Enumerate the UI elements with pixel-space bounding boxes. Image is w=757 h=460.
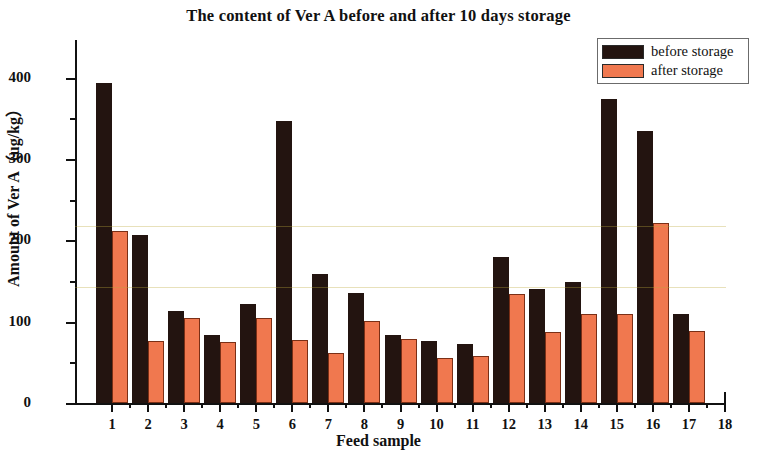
x-tick-minor [526,403,528,408]
bar-before-sample-13 [529,289,545,403]
x-tick-major [183,403,185,412]
x-tick-major [147,403,149,412]
bar-before-sample-14 [565,282,581,403]
x-tick-minor [345,403,347,408]
x-tick-label: 2 [133,416,163,433]
bar-after-sample-16 [653,223,669,403]
x-tick-major [219,403,221,412]
x-tick-label: 12 [494,416,524,433]
x-tick-label: 3 [169,416,199,433]
x-tick-major [400,403,402,412]
x-tick-major [111,403,113,412]
x-tick-label: 5 [241,416,271,433]
x-tick-label: 11 [458,416,488,433]
x-tick-label: 18 [710,416,740,433]
chart-title: The content of Ver A before and after 10… [0,6,757,26]
x-tick-label: 13 [530,416,560,433]
bar-after-sample-1 [112,231,128,403]
x-tick-minor [562,403,564,408]
x-tick-label: 6 [277,416,307,433]
legend-label-before: before storage [651,43,734,60]
y-tick-minor [70,200,75,202]
bar-after-sample-9 [401,339,417,403]
x-tick-minor [598,403,600,408]
bar-after-sample-7 [328,353,344,403]
bar-before-sample-8 [348,293,364,403]
x-tick-minor [490,403,492,408]
figure: The content of Ver A before and after 10… [0,0,757,460]
x-tick-minor [454,403,456,408]
x-tick-label: 14 [566,416,596,433]
bar-before-sample-4 [204,335,220,403]
x-tick-label: 15 [602,416,632,433]
plot-area: 0100200300400 12345678910111213141516171… [75,40,726,405]
bar-before-sample-15 [601,99,617,403]
legend-item-before: before storage [602,42,744,61]
bar-before-sample-3 [168,311,184,403]
bar-after-sample-2 [148,341,164,403]
x-tick-minor [670,403,672,408]
x-tick-minor [129,403,131,408]
bar-before-sample-7 [312,274,328,403]
bar-after-sample-14 [581,314,597,404]
bar-before-sample-10 [421,341,437,403]
bar-before-sample-6 [276,121,292,403]
bar-before-sample-11 [457,344,473,403]
bar-after-sample-17 [689,331,705,403]
bar-before-sample-12 [493,257,509,403]
x-tick-label: 8 [349,416,379,433]
x-tick-minor [706,403,708,408]
x-tick-label: 16 [638,416,668,433]
x-tick-major [544,403,546,412]
bar-after-sample-11 [473,356,489,403]
y-axis-line [75,40,77,405]
x-tick-minor [237,403,239,408]
bar-before-sample-9 [385,335,401,403]
bar-after-sample-3 [184,318,200,403]
x-tick-minor [381,403,383,408]
bar-after-sample-12 [509,294,525,403]
y-tick-major [66,403,75,405]
x-tick-label: 1 [97,416,127,433]
y-tick-major [66,159,75,161]
bar-after-sample-4 [220,342,236,403]
x-tick-major [472,403,474,412]
x-tick-major [436,403,438,412]
x-tick-major [363,403,365,412]
x-tick-major [616,403,618,412]
x-tick-label: 4 [205,416,235,433]
x-tick-label: 17 [674,416,704,433]
y-tick-major [66,78,75,80]
bar-before-sample-2 [132,235,148,403]
bar-before-sample-1 [96,83,112,403]
bar-after-sample-15 [617,314,633,403]
x-tick-label: 9 [386,416,416,433]
legend-label-after: after storage [651,62,723,79]
y-tick-major [66,240,75,242]
y-tick-minor [70,118,75,120]
x-tick-major [327,403,329,412]
y-tick-minor [70,281,75,283]
legend-swatch-after [602,64,644,78]
legend-swatch-before [602,45,644,59]
legend: before storage after storage [597,38,749,84]
bar-after-sample-5 [256,318,272,403]
x-tick-major [255,403,257,412]
y-axis-title: Amount of Ver A（ug/kg） [0,0,24,460]
bar-before-sample-16 [637,131,653,403]
x-tick-label: 10 [422,416,452,433]
x-tick-major [688,403,690,412]
x-tick-major [291,403,293,412]
legend-item-after: after storage [602,61,744,80]
x-tick-major [724,403,726,412]
scan-artifact [75,226,726,227]
x-tick-minor [418,403,420,408]
bar-after-sample-10 [437,358,453,403]
x-tick-minor [273,403,275,408]
x-tick-major [580,403,582,412]
x-tick-minor [309,403,311,408]
scan-artifact [75,287,726,288]
x-tick-minor [201,403,203,408]
bar-after-sample-8 [364,321,380,403]
bar-before-sample-17 [673,314,689,403]
